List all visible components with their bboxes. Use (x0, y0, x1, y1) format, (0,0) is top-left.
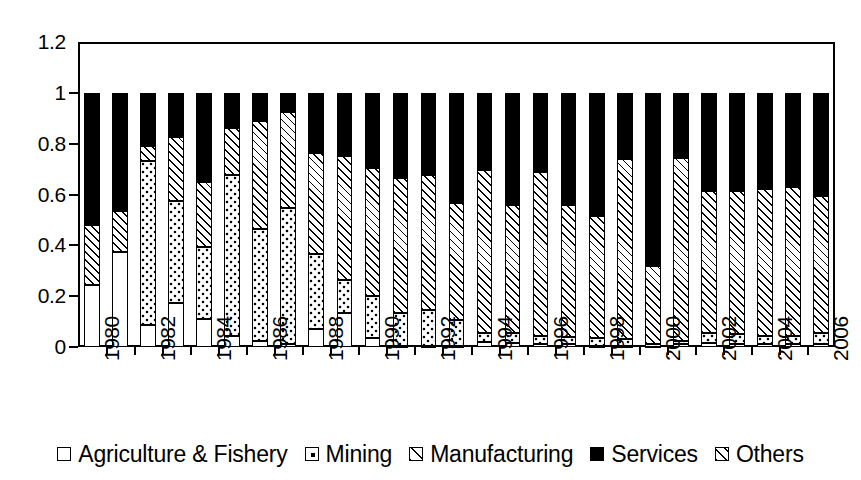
bar-1988[interactable] (308, 42, 324, 347)
bar-segment-others (673, 158, 689, 341)
bar-1997[interactable] (561, 42, 577, 347)
bar-segment-others (701, 191, 717, 333)
bar-segment-services (280, 93, 296, 112)
bar-segment-services (617, 93, 633, 159)
x-axis-tick-label: 1980 (101, 316, 122, 361)
bar-segment-agriculture-and-fishery (757, 344, 773, 347)
bar-segment-agriculture-and-fishery (533, 344, 549, 347)
x-axis-tick-mark (471, 347, 473, 355)
bar-segment-others (729, 191, 745, 335)
bar-segment-mining (365, 296, 381, 338)
chart-plot-region: 00.20.40.60.811.2 1980198219841986198819… (0, 0, 861, 425)
bar-1989[interactable] (337, 42, 353, 347)
y-axis-tick-label: 0.6 (38, 184, 66, 205)
y-axis-tick-label: 0.4 (38, 234, 66, 255)
bar-1990[interactable] (365, 42, 381, 347)
x-axis-tick-label: 1988 (325, 316, 346, 361)
bar-1982[interactable] (140, 42, 156, 347)
bar-segment-agriculture-and-fishery (477, 342, 493, 347)
x-axis-tick-label: 1986 (269, 316, 290, 361)
bar-segment-agriculture-and-fishery (308, 329, 324, 347)
bar-2005[interactable] (785, 42, 801, 347)
bar-segment-mining (252, 229, 268, 341)
bar-segment-agriculture-and-fishery (589, 346, 605, 348)
bar-segment-others (252, 121, 268, 229)
legend-item-label: Services (611, 443, 698, 466)
x-axis-tick-label: 1992 (437, 316, 458, 361)
bar-1987[interactable] (280, 42, 296, 347)
x-axis-tick-mark (246, 347, 248, 355)
bar-1998[interactable] (589, 42, 605, 347)
bar-segment-mining (533, 336, 549, 345)
y-axis-tick-label: 0.8 (38, 133, 66, 154)
bar-1995[interactable] (505, 42, 521, 347)
legend-swatch-icon (305, 447, 319, 461)
bar-segment-others (365, 168, 381, 296)
bar-segment-mining (701, 333, 717, 343)
x-axis-tick-mark (583, 347, 585, 355)
bar-segment-mining (813, 333, 829, 344)
x-axis-tick-label: 2006 (830, 316, 851, 361)
bar-1994[interactable] (477, 42, 493, 347)
bar-segment-others (813, 196, 829, 333)
x-axis-tick-label: 1982 (157, 316, 178, 361)
y-axis-tick-label: 0 (55, 336, 66, 357)
bar-segment-services (421, 93, 437, 176)
bar-segment-others (421, 175, 437, 310)
bar-segment-others (308, 153, 324, 255)
bar-segment-others (757, 189, 773, 335)
bar-segment-services (449, 93, 465, 204)
bar-segment-mining (757, 336, 773, 345)
legend-item-mining: Mining (305, 443, 393, 466)
bar-1985[interactable] (224, 42, 240, 347)
bar-segment-agriculture-and-fishery (196, 319, 212, 347)
bar-segment-services (308, 93, 324, 153)
x-axis-tick-label: 2000 (662, 316, 683, 361)
bar-2002[interactable] (701, 42, 717, 347)
bar-1984[interactable] (196, 42, 212, 347)
bar-segment-others (505, 205, 521, 333)
y-axis: 00.20.40.60.811.2 (0, 0, 66, 425)
x-axis-tick-label: 1998 (606, 316, 627, 361)
bar-2001[interactable] (673, 42, 689, 347)
bar-1993[interactable] (449, 42, 465, 347)
bar-segment-others (645, 266, 661, 345)
bar-segment-mining (337, 280, 353, 313)
bar-1999[interactable] (617, 42, 633, 347)
x-axis-tick-mark (190, 347, 192, 355)
x-axis-tick-label: 2004 (774, 316, 795, 361)
bar-segment-services (533, 93, 549, 172)
bar-segment-services (729, 93, 745, 191)
bar-2004[interactable] (757, 42, 773, 347)
bar-segment-others (112, 211, 128, 252)
bar-segment-services (757, 93, 773, 190)
bar-2006[interactable] (813, 42, 829, 347)
bar-segment-others (337, 156, 353, 279)
bar-1991[interactable] (393, 42, 409, 347)
legend-swatch-icon (590, 447, 604, 461)
bar-segment-others (617, 159, 633, 339)
bar-1986[interactable] (252, 42, 268, 347)
bar-segment-services (252, 93, 268, 121)
x-axis-tick-mark (695, 347, 697, 355)
x-axis-tick-mark (639, 347, 641, 355)
bar-segment-others (449, 203, 465, 320)
legend-item-label: Manufacturing (430, 443, 573, 466)
bar-1981[interactable] (112, 42, 128, 347)
bar-1983[interactable] (168, 42, 184, 347)
y-axis-tick-mark (69, 295, 78, 297)
bar-segment-others (84, 225, 100, 285)
legend-swatch-icon (715, 447, 729, 461)
x-axis-tick-mark (527, 347, 529, 355)
x-axis-tick-mark (807, 347, 809, 355)
bar-1992[interactable] (421, 42, 437, 347)
bar-1996[interactable] (533, 42, 549, 347)
bar-segment-mining (224, 175, 240, 335)
bar-segment-services (645, 93, 661, 266)
legend-item-agriculture-fishery: Agriculture & Fishery (57, 443, 287, 466)
bar-1980[interactable] (84, 42, 100, 347)
bar-2003[interactable] (729, 42, 745, 347)
bar-2000[interactable] (645, 42, 661, 347)
bar-segment-services (785, 93, 801, 187)
legend-swatch-icon (57, 447, 71, 461)
